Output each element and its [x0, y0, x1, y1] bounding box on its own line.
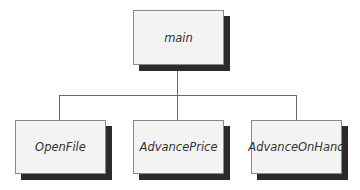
connector-horizontal: [59, 95, 297, 96]
node-label: OpenFile: [35, 140, 86, 154]
node-label: main: [164, 31, 193, 45]
node-advanceprice: AdvancePrice: [133, 120, 224, 174]
node-label: AdvancePrice: [140, 140, 218, 154]
node-main: main: [133, 10, 224, 65]
connector-advanceprice: [177, 95, 178, 120]
connector-root-down: [177, 65, 178, 96]
connector-openfile: [59, 95, 60, 120]
node-label: AdvanceOnHand: [248, 140, 344, 154]
node-openfile: OpenFile: [15, 120, 106, 174]
node-advanceonhand: AdvanceOnHand: [251, 120, 342, 174]
connector-advanceonhand: [296, 95, 297, 120]
